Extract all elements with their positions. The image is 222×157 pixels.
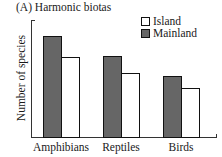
category-label-amphibians: Amphibians xyxy=(32,141,90,153)
legend-label-island: Island xyxy=(153,15,181,27)
legend-item-mainland: Mainland xyxy=(141,27,197,39)
category-label-reptiles: Reptiles xyxy=(96,141,146,153)
bar-amphibians-mainland xyxy=(43,36,62,138)
legend: Island Mainland xyxy=(141,15,197,39)
legend-item-island: Island xyxy=(141,15,197,27)
bar-reptiles-mainland xyxy=(103,56,122,138)
category-label-birds: Birds xyxy=(158,141,204,153)
island-swatch-icon xyxy=(141,17,150,26)
y-axis-label: Number of species xyxy=(15,23,27,133)
y-axis xyxy=(31,20,32,137)
y-axis-top-tick xyxy=(31,20,35,21)
legend-label-mainland: Mainland xyxy=(153,27,197,39)
chart-title: (A) Harmonic biotas xyxy=(16,1,111,13)
bar-reptiles-island xyxy=(121,73,140,138)
bar-birds-mainland xyxy=(163,76,182,138)
bar-birds-island xyxy=(181,88,200,138)
mainland-swatch-icon xyxy=(141,29,150,38)
bar-amphibians-island xyxy=(61,57,80,138)
x-axis-end-tick xyxy=(216,134,217,137)
